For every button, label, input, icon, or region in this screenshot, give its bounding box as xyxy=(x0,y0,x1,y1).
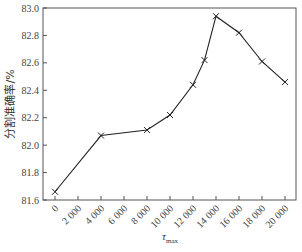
data-line xyxy=(55,16,285,192)
x-tick-label: 16 000 xyxy=(217,203,244,230)
x-marker-icon xyxy=(52,189,58,195)
x-marker-icon xyxy=(282,79,288,85)
x-tick-label: 14 000 xyxy=(194,203,221,230)
x-tick-label: 12 000 xyxy=(171,203,198,230)
data-markers xyxy=(52,13,288,195)
x-tick-label: 6 000 xyxy=(106,203,130,227)
y-tick-label: 81.8 xyxy=(22,167,40,178)
y-axis-label: 分割准确率/% xyxy=(3,69,17,138)
x-marker-icon xyxy=(236,30,242,36)
line-chart: 81.681.882.082.282.482.682.883.0 02 0004… xyxy=(0,0,302,252)
x-tick-label: 10 000 xyxy=(148,203,175,230)
x-tick-label: 2 000 xyxy=(60,203,84,227)
x-tick-label: 18 000 xyxy=(240,203,267,230)
y-tick-label: 82.4 xyxy=(22,85,40,96)
x-tick-label: 20 000 xyxy=(263,203,290,230)
y-tick-label: 82.2 xyxy=(22,112,40,123)
plot-frame xyxy=(43,8,296,200)
y-tick-label: 82.8 xyxy=(22,30,40,41)
y-tick-label: 82.0 xyxy=(22,140,40,151)
x-tick-label: 4 000 xyxy=(83,203,107,227)
y-tick-label: 82.6 xyxy=(22,57,40,68)
x-axis: 02 0004 0006 0008 00010 00012 00014 0001… xyxy=(49,196,290,230)
y-tick-label: 81.6 xyxy=(22,195,40,206)
y-tick-label: 83.0 xyxy=(22,3,40,14)
x-tick-label: 0 xyxy=(49,203,60,214)
x-marker-icon xyxy=(167,112,173,118)
x-axis-label: τmax xyxy=(162,230,178,245)
x-marker-icon xyxy=(190,82,196,88)
x-marker-icon xyxy=(259,58,265,64)
